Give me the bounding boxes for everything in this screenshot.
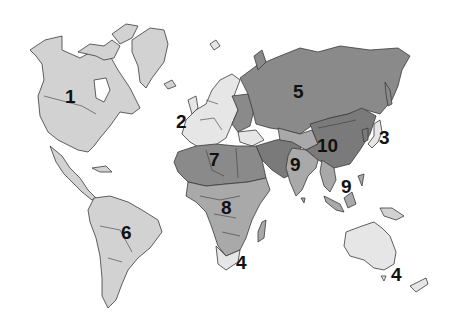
region-label-8: 8 [221,198,232,217]
region-label-4-africa: 4 [236,253,247,272]
region-madagascar[interactable] [258,220,266,242]
region-label-5: 5 [293,82,304,101]
region-label-9-southeast-asia: 9 [341,177,352,196]
region-greenland[interactable] [132,28,168,88]
region-label-1: 1 [65,87,76,106]
region-label-10: 10 [317,136,338,155]
region-western-europe[interactable] [182,74,240,148]
region-label-2: 2 [176,112,187,131]
region-label-4-australia: 4 [391,265,402,284]
region-new-zealand[interactable] [410,278,428,292]
region-north-africa[interactable] [174,144,266,186]
region-label-7: 7 [209,150,220,169]
region-label-6: 6 [121,223,132,242]
region-australia[interactable] [344,222,396,270]
region-south-america[interactable] [88,196,162,308]
region-mexico-central-america[interactable] [50,146,96,200]
region-new-guinea[interactable] [380,208,404,220]
region-label-9-south-asia: 9 [290,155,301,174]
region-iceland[interactable] [164,80,176,89]
region-label-3: 3 [379,128,390,147]
